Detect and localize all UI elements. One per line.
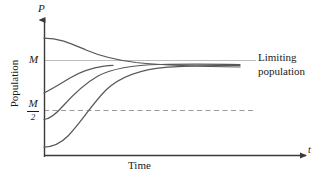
x-axis-title: Time: [128, 160, 151, 171]
annotation-line-2: population: [258, 65, 305, 77]
m-half-denominator: 2: [31, 113, 36, 122]
curve-logistic-start-near-m-half-upper: [44, 65, 113, 93]
y-tick-label-m-half: M 2: [27, 98, 39, 122]
y-axis-title: Population: [9, 52, 20, 116]
y-tick-label-m: M: [29, 54, 38, 65]
curve-logistic-start-below-m-half: [44, 64, 240, 119]
plot-canvas: [0, 0, 324, 183]
m-half-numerator: M: [28, 98, 37, 110]
annotation-line-1: Limiting: [258, 51, 297, 63]
t-axis-label: t: [308, 145, 311, 155]
curve-above-carrying-capacity: [44, 38, 240, 67]
curve-logistic-start-near-zero: [44, 65, 240, 147]
limiting-population-annotation: Limiting population: [258, 51, 305, 79]
logistic-growth-figure: P t Time Population M M 2 Limiting popul…: [0, 0, 324, 183]
p-axis-label: P: [38, 3, 45, 14]
